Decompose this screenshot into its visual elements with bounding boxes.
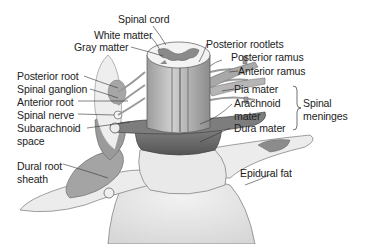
spinal-cord xyxy=(147,42,210,133)
label-pia-mater: Pia mater xyxy=(234,83,278,95)
label-dural-root-sheath-line2: sheath xyxy=(17,173,48,185)
label-spinal-meninges-line1: Spinal xyxy=(303,97,332,109)
label-gray-matter: Gray matter xyxy=(74,41,128,53)
label-arachnoid-mater-line1: Arachnoid xyxy=(234,97,280,109)
label-dura-mater: Dura mater xyxy=(234,122,286,134)
label-posterior-root: Posterior root xyxy=(17,70,79,82)
spinal-meninges-diagram: Spinal cord White matter Gray matter Pos… xyxy=(0,0,365,244)
label-anterior-root: Anterior root xyxy=(17,96,73,108)
label-spinal-meninges-line2: meninges xyxy=(303,110,348,122)
label-spinal-ganglion: Spinal ganglion xyxy=(17,83,87,95)
label-posterior-ramus: Posterior ramus xyxy=(231,51,304,63)
label-dural-root-sheath-line1: Dural root xyxy=(17,160,62,172)
label-epidural-fat: Epidural fat xyxy=(240,167,292,179)
label-white-matter: White matter xyxy=(94,29,152,41)
meninges-bracket xyxy=(293,86,301,130)
label-spinal-nerve: Spinal nerve xyxy=(17,109,74,121)
label-subarachnoid-space-line2: space xyxy=(17,135,45,147)
label-spinal-cord: Spinal cord xyxy=(118,13,169,25)
label-posterior-rootlets: Posterior rootlets xyxy=(206,38,284,50)
label-arachnoid-mater-line2: mater xyxy=(234,110,260,122)
label-anterior-ramus: Anterior ramus xyxy=(238,65,305,77)
label-subarachnoid-space-line1: Subarachnoid xyxy=(17,122,81,134)
